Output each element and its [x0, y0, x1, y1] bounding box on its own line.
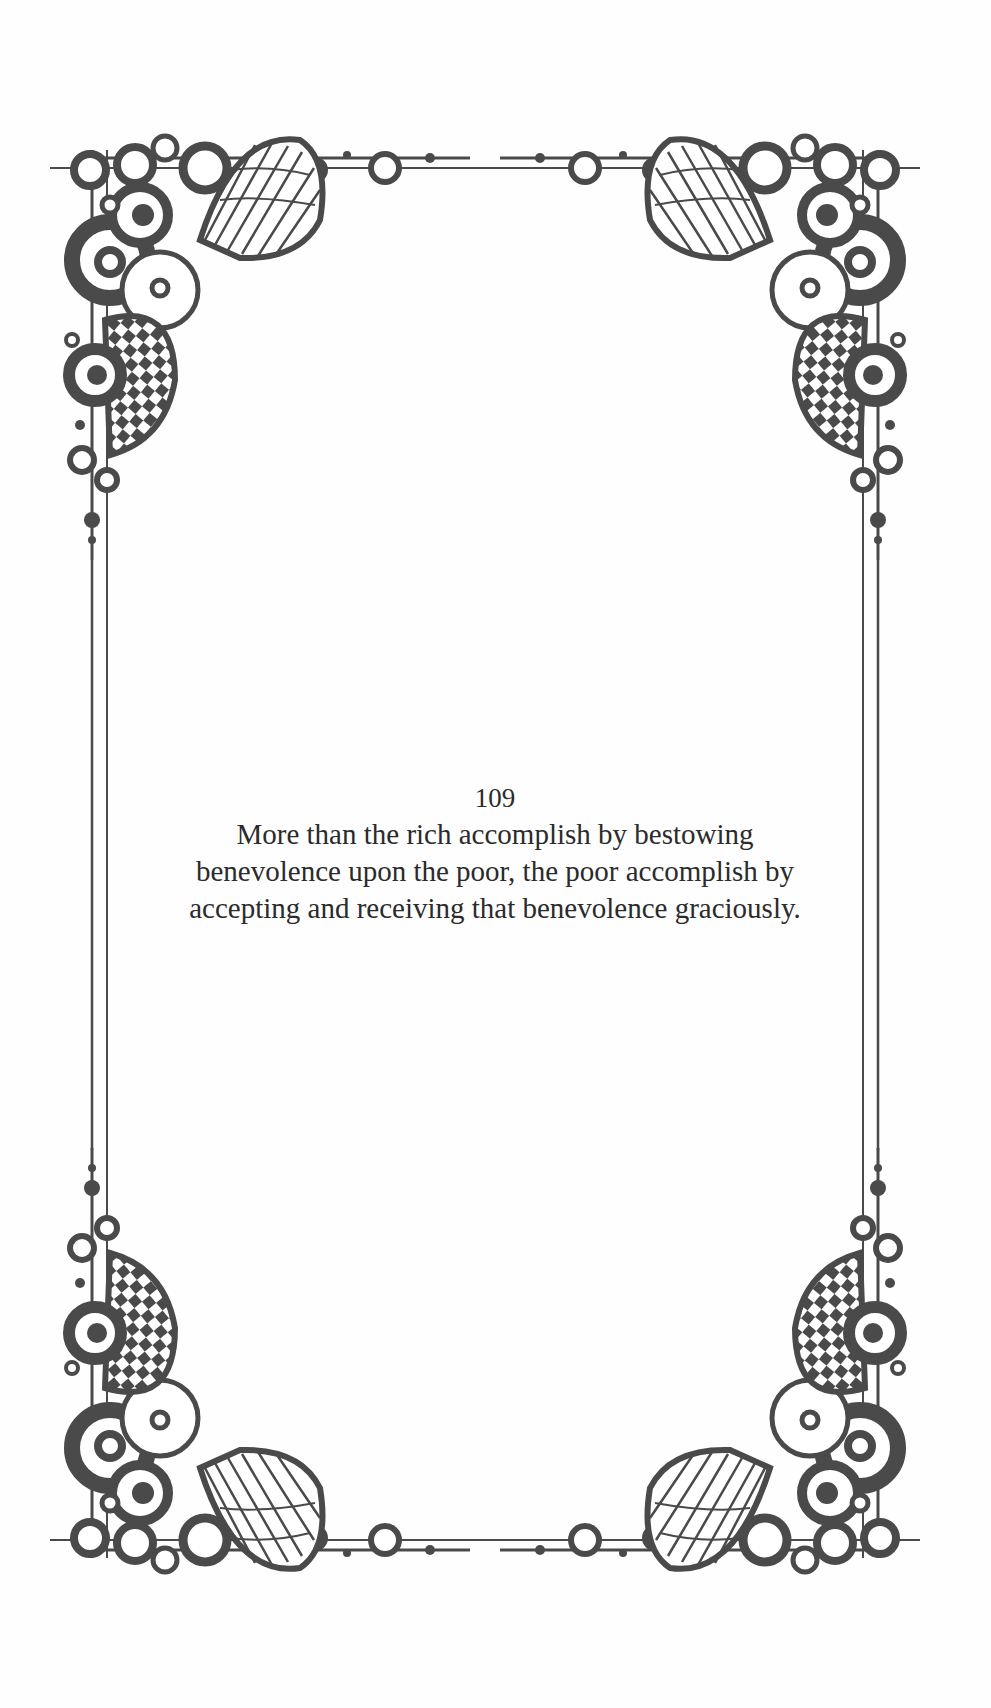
text-line: More than the rich accomplish by bestowi… [110, 816, 880, 853]
page-content: 109 More than the rich accomplish by bes… [110, 780, 880, 927]
corner-ornament-bottom-right [500, 1148, 920, 1572]
corner-ornament-top-right [500, 136, 920, 560]
text-line: benevolence upon the poor, the poor acco… [110, 853, 880, 890]
corner-ornament-top-left [50, 136, 470, 560]
text-line: accepting and receiving that benevolence… [110, 890, 880, 927]
corner-ornament-bottom-left [50, 1148, 470, 1572]
aphorism-text: More than the rich accomplish by bestowi… [110, 816, 880, 927]
page-number: 109 [110, 780, 880, 816]
book-page: 109 More than the rich accomplish by bes… [0, 0, 991, 1708]
